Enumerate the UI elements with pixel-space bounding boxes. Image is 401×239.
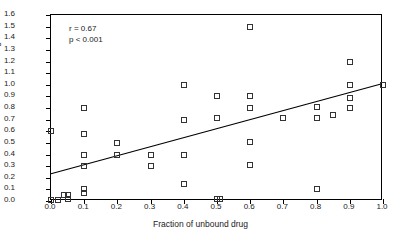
y-axis-tick [46,85,51,86]
data-point-marker [380,82,386,88]
data-point-marker [181,117,187,123]
data-point-marker [347,95,353,101]
y-axis-tick-label: 1.0 [0,80,15,88]
data-point-marker [81,131,87,137]
data-point-marker [65,196,71,202]
y-axis-tick-label: 0.1 [0,184,15,192]
y-axis-tick-label: 0.2 [0,173,15,181]
p-value-text: p < 0.001 [69,34,103,45]
data-point-marker [148,152,154,158]
data-point-marker [114,152,120,158]
x-axis-tick-label: 0.9 [336,203,362,211]
data-point-marker [247,139,253,145]
y-axis-tick [46,178,51,179]
x-axis-tick-label: 0.0 [37,203,63,211]
y-axis-tick-label: 0.7 [0,115,15,123]
y-axis-tick-label: 1.1 [0,68,15,76]
x-axis-title: Fraction of unbound drug [0,220,401,229]
x-axis-tick-label: 0.3 [137,203,163,211]
data-point-marker [214,93,220,99]
data-point-marker [81,190,87,196]
y-axis-tick [46,166,51,167]
y-axis-tick-label: 1.2 [0,57,15,65]
data-point-marker [247,93,253,99]
data-point-marker [330,112,336,118]
y-axis-tick-label: 1.6 [0,10,15,18]
y-axis-tick-label: 1.4 [0,33,15,41]
y-axis-tick [46,73,51,74]
y-axis-tick [46,96,51,97]
plot-area: r = 0.67 p < 0.001 [50,14,382,200]
y-axis-tick [46,38,51,39]
y-axis-tick-label: 0.6 [0,126,15,134]
x-axis-tick-label: 0.8 [303,203,329,211]
data-point-marker [247,105,253,111]
x-axis-tick-label: 0.4 [170,203,196,211]
y-axis-tick-label: 0.8 [0,103,15,111]
y-axis-tick [46,120,51,121]
y-axis-tick-label: 0.9 [0,91,15,99]
y-axis-tick [46,62,51,63]
data-point-marker [280,115,286,121]
y-axis-tick [46,143,51,144]
data-point-marker [347,59,353,65]
data-point-marker [314,186,320,192]
y-axis-tick-label: 0.5 [0,138,15,146]
data-point-marker [217,196,223,202]
data-point-marker [181,152,187,158]
data-point-marker [314,115,320,121]
x-axis-tick-label: 0.1 [70,203,96,211]
y-axis-tick-label: 0.3 [0,161,15,169]
data-point-marker [347,105,353,111]
y-axis-tick [46,189,51,190]
data-point-marker [114,140,120,146]
data-point-marker [181,181,187,187]
y-axis-tick [46,50,51,51]
data-point-marker [81,152,87,158]
data-point-marker [48,128,54,134]
x-axis-tick-label: 0.5 [203,203,229,211]
y-axis-tick [46,15,51,16]
statistics-annotation: r = 0.67 p < 0.001 [69,23,103,45]
x-axis-tick-label: 1.0 [369,203,395,211]
scatter-plot-figure: Sieving coefficient 0.00.10.20.30.40.50.… [0,0,401,239]
x-axis-tick-label: 0.7 [269,203,295,211]
data-point-marker [214,115,220,121]
y-axis-tick-label: 0.4 [0,150,15,158]
data-point-marker [347,82,353,88]
correlation-text: r = 0.67 [69,23,103,34]
y-axis-tick [46,27,51,28]
data-point-marker [314,104,320,110]
data-point-marker [148,163,154,169]
data-point-marker [247,162,253,168]
x-axis-tick-label: 0.2 [103,203,129,211]
y-axis-tick [46,108,51,109]
data-point-marker [81,163,87,169]
y-axis-tick [46,155,51,156]
y-axis-tick-label: 1.3 [0,45,15,53]
y-axis-tick-label: 0.0 [0,196,15,204]
y-axis-tick-label: 1.5 [0,22,15,30]
x-axis-tick-label: 0.6 [236,203,262,211]
data-point-marker [247,24,253,30]
data-point-marker [81,105,87,111]
data-point-marker [181,82,187,88]
